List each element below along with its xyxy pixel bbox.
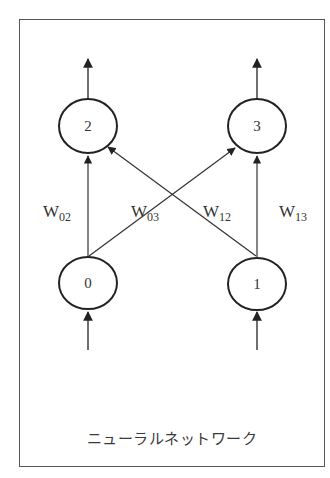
weight-label-w02: W02	[43, 202, 71, 224]
weight-main: W	[131, 202, 148, 221]
node-label: 0	[84, 275, 92, 291]
weight-main: W	[43, 202, 60, 221]
node-0: 0	[59, 257, 117, 309]
weight-sub: 12	[219, 210, 231, 224]
neural-network-diagram: 2 3 0 1 W02 W03 W12 W13	[0, 0, 330, 478]
node-2: 2	[59, 99, 117, 153]
weight-sub: 02	[59, 210, 71, 224]
node-3: 3	[228, 99, 286, 153]
node-label: 1	[253, 276, 261, 292]
weight-sub: 03	[147, 210, 159, 224]
node-label: 3	[253, 118, 261, 134]
weight-main: W	[203, 202, 220, 221]
weight-label-w13: W13	[279, 202, 307, 224]
diagram-caption: ニューラルネットワーク	[19, 427, 325, 448]
node-label: 2	[84, 118, 92, 134]
node-1: 1	[228, 258, 286, 310]
weight-label-w12: W12	[203, 202, 231, 224]
weight-main: W	[279, 202, 296, 221]
weight-sub: 13	[295, 210, 307, 224]
weight-label-w03: W03	[131, 202, 159, 224]
